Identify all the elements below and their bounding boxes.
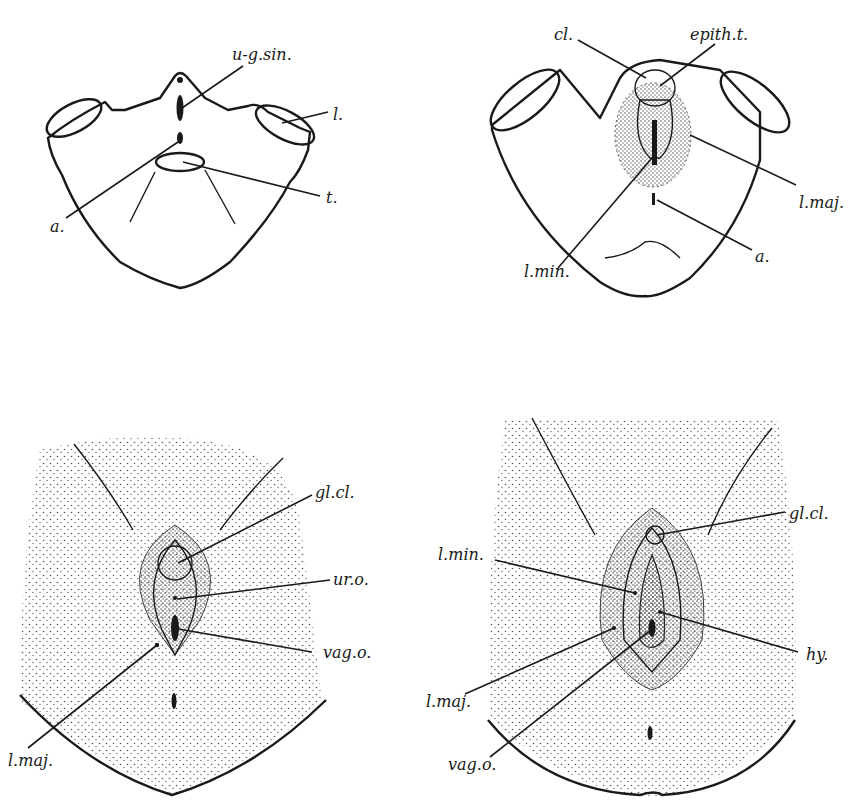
right-leg-stump <box>250 98 320 153</box>
panel-top-left: u-g.sin. l. t. a. <box>41 45 343 288</box>
label-hy: hy. <box>806 645 828 664</box>
label-l-maj: l.maj. <box>799 193 844 212</box>
embryo-outline-top-right <box>492 60 760 296</box>
vaginal-orifice <box>171 615 179 641</box>
anus <box>172 693 177 709</box>
label-l-maj: l.maj. <box>8 751 53 770</box>
tail-stump <box>156 153 204 171</box>
anus-mark <box>652 193 655 205</box>
label-l-maj: l.maj. <box>426 692 471 711</box>
left-leg-stump <box>481 59 568 141</box>
right-leg-stump <box>711 61 798 143</box>
panel-top-right: cl. epith.t. l.maj. l.min. a. <box>481 25 844 296</box>
panel-bottom-left: gl.cl. ur.o. vag.o. l.maj. <box>8 437 371 795</box>
label-cl: cl. <box>554 25 573 44</box>
anatomical-figure: u-g.sin. l. t. a. cl. epith.t. l.maj. l.… <box>0 0 863 809</box>
panel-bottom-right: gl.cl. l.min. hy. l.maj. vag.o. <box>426 418 829 798</box>
label-t: t. <box>326 188 338 207</box>
label-a: a. <box>755 247 770 266</box>
label-l-min: l.min. <box>438 545 484 564</box>
label-l-min: l.min. <box>524 262 570 281</box>
vaginal-orifice <box>649 619 656 637</box>
label-gl-cl: gl.cl. <box>315 483 355 502</box>
label-vag-o: vag.o. <box>323 643 371 662</box>
label-ur-o: ur.o. <box>333 570 369 589</box>
label-u-g-sin: u-g.sin. <box>232 45 292 64</box>
left-leg-stump <box>41 92 107 145</box>
label-a: a. <box>50 217 65 236</box>
label-l: l. <box>333 105 343 124</box>
label-vag-o: vag.o. <box>448 755 496 774</box>
label-epith-t: epith.t. <box>690 25 748 44</box>
anus <box>648 726 653 740</box>
label-gl-cl: gl.cl. <box>789 504 829 523</box>
